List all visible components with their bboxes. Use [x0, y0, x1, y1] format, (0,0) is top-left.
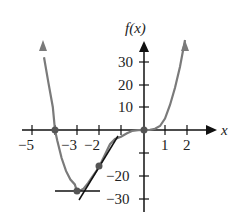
y-tick-label: 10 [118, 99, 133, 115]
x-tick-label: 2 [183, 137, 191, 153]
y-tick-label: 20 [118, 77, 133, 93]
x-tick-label: 1 [161, 137, 169, 153]
x-axis-label: x [220, 122, 228, 138]
y-tick-label: −20 [106, 168, 129, 184]
origin-point [141, 127, 148, 134]
y-tick-label: −30 [106, 191, 129, 207]
y-axis-arrow-icon [139, 41, 149, 52]
function-graph: f(x) x −5 −3 −2 1 2 30 20 10 −20 −30 [0, 0, 239, 218]
x-tick-label: −5 [18, 137, 34, 153]
minimum-point [74, 188, 81, 195]
y-tick-label: 30 [118, 54, 133, 70]
curve-right-arrow-icon [181, 40, 189, 51]
curve-left-arrow-icon [39, 40, 47, 51]
x-axis-arrow-icon [206, 125, 217, 135]
inflection-point [96, 163, 103, 170]
zero-point-minus4 [52, 127, 59, 134]
x-tick-label: −3 [61, 137, 77, 153]
y-axis-label: f(x) [125, 20, 146, 37]
x-tick-label: −2 [84, 137, 100, 153]
